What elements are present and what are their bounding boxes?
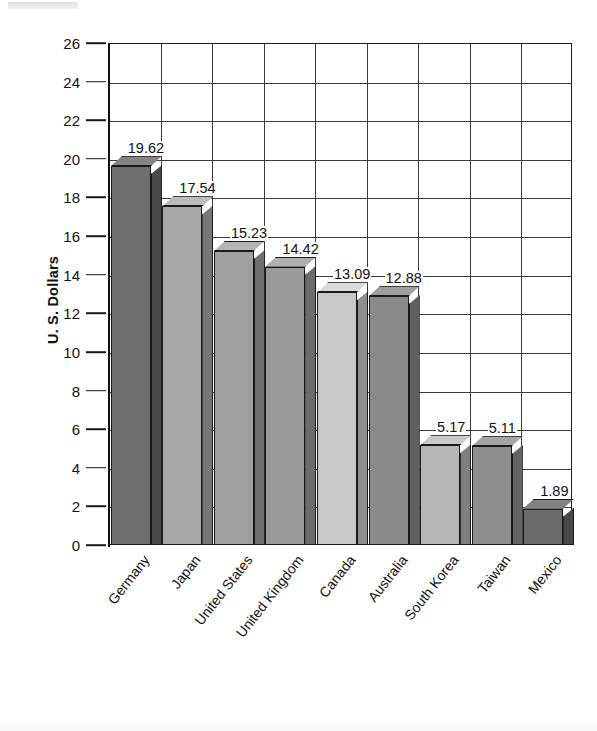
bar-side-face [202,205,213,545]
bar-united-kingdom[interactable] [265,267,305,545]
bar-germany[interactable] [111,166,151,545]
bar-value-label: 12.88 [385,271,423,286]
bar-australia[interactable] [369,296,409,545]
y-tick-mark [86,235,106,237]
bar-top-face [111,156,162,166]
bar-front-face [111,166,151,545]
bar-side-face [409,295,420,545]
y-tick-mark [86,544,106,546]
bar-top-face [369,286,420,296]
bars-layer: 19.6217.5415.2314.4213.0912.885.175.111.… [108,43,572,545]
bar-value-label: 1.89 [539,484,569,499]
y-tick-mark [86,390,106,392]
y-tick-mark [86,274,106,276]
y-tick-mark [86,506,106,508]
bar-top-face [317,282,368,292]
y-tick-label-text: 6 [28,421,80,438]
bar-top-face [214,241,265,251]
bar-top-face [420,435,471,445]
bar-front-face [317,292,357,545]
y-tick-label-text: 2 [28,498,80,515]
y-tick-label-text: 16 [28,228,80,245]
y-tick-label-text: 24 [28,73,80,90]
y-tick-label-text: 14 [28,266,80,283]
y-tick-label-text: 10 [28,343,80,360]
y-tick-label-text: 4 [28,459,80,476]
x-axis-category-labels: GermanyJapanUnited StatesUnited KingdomC… [108,552,572,702]
y-tick-mark [86,428,106,430]
bar-side-face [151,165,162,545]
y-tick-mark [86,119,106,121]
y-tick-mark [86,351,106,353]
y-tick-mark [86,313,106,315]
bar-top-face [472,436,523,446]
bar-side-face [563,508,574,545]
y-tick-label-text: 18 [28,189,80,206]
y-tick-mark [86,467,106,469]
bar-value-label: 19.62 [127,141,165,156]
y-tick-mark [86,81,106,83]
bar-united-states[interactable] [214,251,254,545]
bar-side-face [460,444,471,545]
bar-side-face [512,445,523,545]
y-axis-line [108,43,110,547]
bar-front-face [369,296,409,545]
y-tick-label-text: 0 [28,537,80,554]
bar-japan[interactable] [162,206,202,545]
y-tick-mark [86,158,106,160]
bar-south-korea[interactable] [420,445,460,545]
bar-top-face [265,257,316,267]
bar-top-face [162,196,213,206]
bar-value-label: 5.17 [436,420,466,435]
y-tick-label-text: 20 [28,150,80,167]
bar-top-face [523,499,574,509]
bar-mexico[interactable] [523,509,563,545]
y-tick-mark [86,197,106,199]
y-tick-label-text: 8 [28,382,80,399]
bar-canada[interactable] [317,292,357,545]
bar-side-face [305,266,316,545]
bar-value-label: 5.11 [488,421,517,436]
bar-front-face [472,446,512,545]
bar-front-face [420,445,460,545]
y-tick-label-text: 12 [28,305,80,322]
bar-chart-figure: U. S. Dollars 26242220181614121086420 19… [0,0,597,731]
bar-front-face [214,251,254,545]
y-tick-label-text: 22 [28,112,80,129]
bar-value-label: 13.09 [333,267,371,282]
bar-value-label: 15.23 [230,226,268,241]
bar-value-label: 17.54 [178,181,216,196]
y-tick-mark [86,42,106,44]
bar-front-face [162,206,202,545]
bar-side-face [357,291,368,545]
bar-value-label: 14.42 [281,242,319,257]
bar-front-face [265,267,305,545]
bar-front-face [523,509,563,545]
bar-taiwan[interactable] [472,446,512,545]
bar-side-face [254,250,265,545]
y-tick-label-text: 26 [28,35,80,52]
